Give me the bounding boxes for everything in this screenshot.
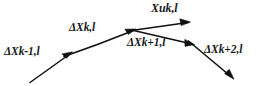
vector-label-x-u-k: Xuk,l [151,2,178,14]
vector-label-delta-x-k-plus-2: ΔXk+2,l [204,44,242,56]
vector-diagram-figure: ΔXk-1,l ΔXk,l Xuk,l ΔXk+1,l ΔXk+2,l [0,0,267,86]
vector-label-delta-x-k: ΔXk,l [69,22,95,34]
vector-label-delta-x-k-minus-1: ΔXk-1,l [4,46,40,58]
vector-label-delta-x-k-plus-1: ΔXk+1,l [127,37,165,49]
